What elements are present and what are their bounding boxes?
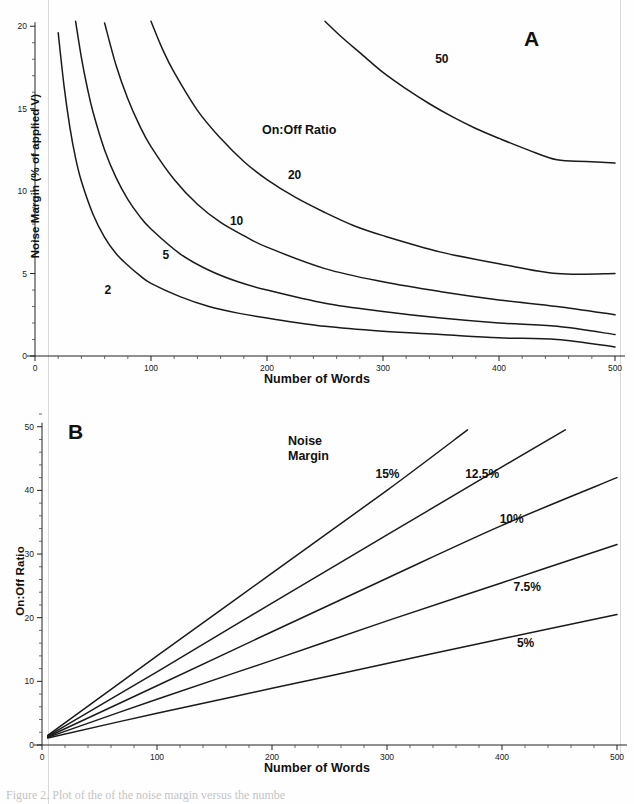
panel-b-legend-title: Noise Margin xyxy=(288,434,329,464)
curve-a-5 xyxy=(76,21,615,334)
panel-b-y-axis-title: On:Off Ratio xyxy=(14,501,26,661)
curve-a-2 xyxy=(58,33,615,347)
panel-a-x-axis-title: Number of Words xyxy=(0,372,634,386)
curve-a-50 xyxy=(325,21,615,163)
curve-label-a-2: 2 xyxy=(105,283,112,297)
panel-a-axes: 051015200100200300400500 xyxy=(18,21,625,373)
panel-a: 051015200100200300400500 A On:Off Ratio … xyxy=(0,0,634,392)
curve-label-b-15: 15% xyxy=(376,467,400,481)
svg-text:15: 15 xyxy=(18,104,28,114)
curve-label-a-10: 10 xyxy=(230,214,243,228)
svg-text:0: 0 xyxy=(22,351,27,361)
curve-label-b-75: 7.5% xyxy=(514,580,541,594)
svg-text:50: 50 xyxy=(25,422,35,432)
figure-page: 051015200100200300400500 A On:Off Ratio … xyxy=(0,0,634,804)
curve-label-b-5: 5% xyxy=(517,636,534,650)
svg-text:20: 20 xyxy=(18,21,28,31)
panel-a-legend-title: On:Off Ratio xyxy=(262,123,336,138)
curve-label-a-20: 20 xyxy=(288,168,301,182)
svg-text:0: 0 xyxy=(29,740,34,750)
panel-b-x-axis-title: Number of Words xyxy=(0,761,634,775)
svg-text:10: 10 xyxy=(25,676,35,686)
curve-b-5 xyxy=(48,615,617,738)
curve-b-10 xyxy=(48,478,617,737)
panel-a-label: A xyxy=(524,27,539,51)
curve-label-b-10: 10% xyxy=(500,512,524,526)
panel-b-label: B xyxy=(68,420,83,444)
panel-a-curves xyxy=(58,21,615,347)
curve-b-15 xyxy=(48,430,468,736)
curve-a-20 xyxy=(151,21,615,274)
curve-label-b-125: 12.5% xyxy=(465,467,499,481)
figure-caption: Figure 2. Plot of the of the noise margi… xyxy=(6,788,630,804)
svg-text:5: 5 xyxy=(22,269,27,279)
panel-a-plot: 051015200100200300400500 xyxy=(0,0,634,392)
curve-label-a-5: 5 xyxy=(163,248,170,262)
svg-text:40: 40 xyxy=(25,485,35,495)
svg-text:10: 10 xyxy=(18,186,28,196)
curve-label-a-50: 50 xyxy=(435,52,448,66)
panel-a-y-axis-title: Noise Margin (% of applied V) xyxy=(29,56,41,296)
